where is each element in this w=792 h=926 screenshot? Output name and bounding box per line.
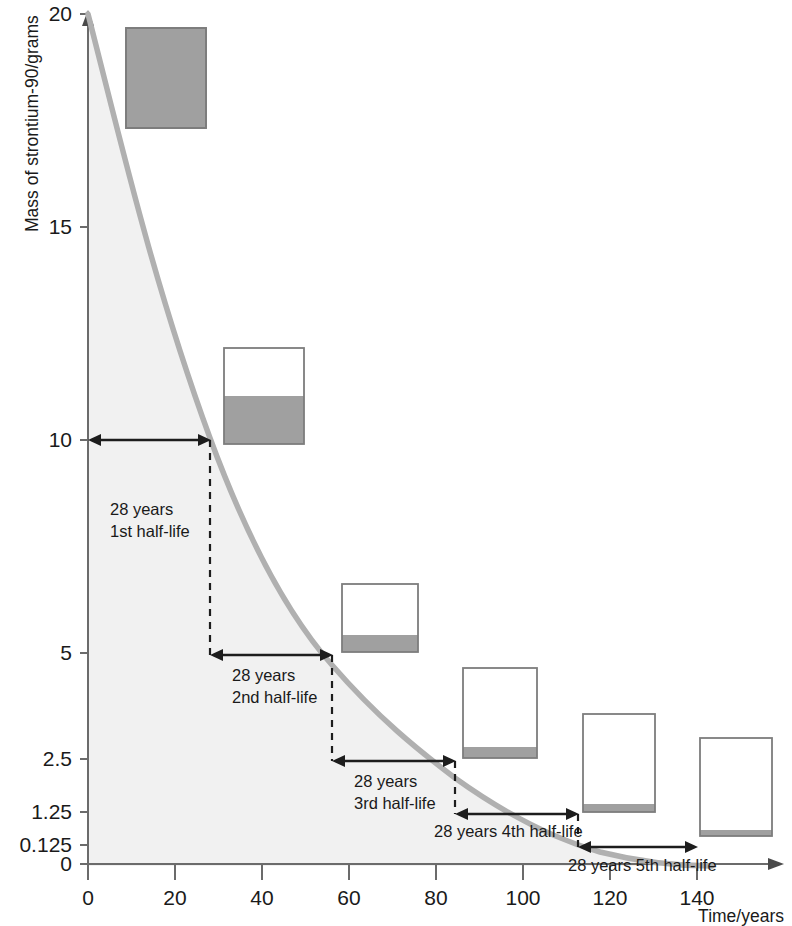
sample-box-5 [700,738,772,836]
x-tick-label-80: 80 [396,886,476,911]
y-tick-label-5: 5 [0,641,72,666]
annotation-half-life-3: 28 years 3rd half-life [354,770,436,815]
annotation-half-life-1-line2: 1st half-life [110,520,190,542]
y-tick-label-0: 0 [0,852,72,877]
annotation-half-life-4: 28 years 4th half-life [434,822,583,841]
x-tick-label-120: 120 [570,886,650,911]
x-tick-label-20: 20 [135,886,215,911]
x-tick-label-0: 0 [48,886,128,911]
annotation-half-life-2-line2: 2nd half-life [232,686,317,708]
y-tick-marks [80,14,88,864]
annotation-half-life-1-line1: 28 years [110,498,190,520]
sample-box-2 [342,584,418,652]
annotation-half-life-2-line1: 28 years [232,664,317,686]
sample-box-1 [224,348,304,444]
x-axis-title: Time/years [698,906,784,926]
x-tick-label-60: 60 [309,886,389,911]
sample-box-4 [583,714,655,812]
y-tick-label-20: 20 [0,2,72,27]
annotation-half-life-3-line2: 3rd half-life [354,792,436,814]
x-axis-arrowhead [768,858,784,870]
annotation-half-life-2: 28 years 2nd half-life [232,664,317,709]
x-tick-label-40: 40 [222,886,302,911]
x-tick-label-100: 100 [483,886,563,911]
decay-curve-figure: Mass of strontium-90/grams 20 15 10 5 2.… [0,0,792,926]
annotation-half-life-1: 28 years 1st half-life [110,498,190,543]
y-tick-label-1-25: 1.25 [0,800,72,825]
y-tick-label-10: 10 [0,428,72,453]
annotation-half-life-3-line1: 28 years [354,770,436,792]
y-axis-title: Mass of strontium-90/grams [22,15,43,232]
y-tick-label-2-5: 2.5 [0,747,72,772]
sample-box-0 [126,28,206,128]
y-tick-label-15: 15 [0,215,72,240]
annotation-half-life-5: 28 years 5th half-life [568,856,717,875]
sample-box-3 [463,668,537,758]
